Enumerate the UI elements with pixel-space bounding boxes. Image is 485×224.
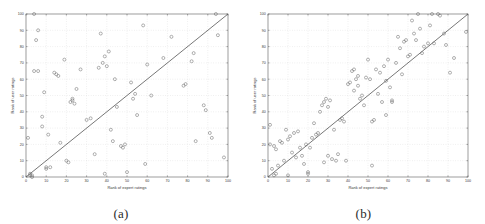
data-point	[449, 71, 452, 74]
data-point	[192, 52, 195, 55]
data-point	[339, 118, 342, 121]
data-point	[351, 70, 354, 73]
data-point	[315, 133, 318, 136]
data-point	[377, 92, 380, 95]
data-point	[136, 114, 139, 117]
data-point	[381, 101, 384, 104]
data-point	[277, 164, 280, 167]
data-point	[401, 73, 404, 76]
data-point	[397, 35, 400, 38]
y-tick-label: 10	[20, 159, 24, 163]
data-point	[162, 57, 165, 60]
y-tick-label: 80	[262, 45, 266, 49]
y-tick-label: 60	[20, 78, 24, 82]
data-point	[329, 99, 332, 102]
data-point	[325, 97, 328, 100]
data-point	[89, 117, 92, 120]
data-point	[208, 131, 211, 134]
data-point	[323, 161, 326, 164]
data-point	[365, 76, 368, 79]
data-point	[359, 97, 362, 100]
data-points	[27, 13, 226, 179]
data-point	[109, 128, 112, 131]
y-axis-title: Rank of user ratings	[252, 78, 257, 114]
figure-container: 0102030405060708090100010203040506070809…	[0, 0, 485, 224]
y-tick-label: 100	[18, 12, 24, 16]
panel-a-caption: (a)	[0, 206, 242, 222]
y-tick-label: 90	[20, 29, 24, 33]
data-point	[99, 32, 102, 35]
x-tick-label: 10	[44, 179, 48, 183]
data-point	[439, 14, 442, 17]
data-point	[41, 125, 44, 128]
data-point	[222, 156, 225, 159]
x-tick-label: 40	[105, 179, 109, 183]
y-tick-label: 100	[260, 12, 266, 16]
x-tick-label: 0	[267, 179, 269, 183]
data-point	[409, 53, 412, 56]
data-point	[353, 68, 356, 71]
y-tick-label: 30	[262, 126, 266, 130]
x-axis-title: Rank of expert ratings	[107, 185, 146, 190]
y-tick-label: 60	[262, 78, 266, 82]
data-point	[103, 172, 106, 175]
data-point	[67, 161, 70, 164]
data-point	[285, 128, 288, 131]
y-tick-label: 20	[20, 143, 24, 147]
data-point	[289, 135, 292, 138]
data-point	[411, 19, 414, 22]
x-tick-label: 90	[206, 179, 210, 183]
y-tick-label: 90	[262, 29, 266, 33]
data-point	[313, 122, 316, 125]
y-axis-title: Rank of user ratings	[10, 78, 15, 114]
x-tick-label: 0	[25, 179, 27, 183]
data-point	[413, 32, 416, 35]
data-point	[57, 74, 60, 77]
data-point	[130, 81, 133, 84]
data-point	[142, 24, 145, 27]
y-tick-label: 20	[262, 143, 266, 147]
data-point	[190, 60, 193, 63]
data-point	[419, 27, 422, 30]
x-tick-label: 10	[286, 179, 290, 183]
data-point	[73, 102, 76, 105]
data-point	[134, 92, 137, 95]
y-tick-label: 40	[20, 110, 24, 114]
x-axis-title: Rank of expert ratings	[348, 185, 387, 190]
data-point	[403, 40, 406, 43]
data-point	[269, 123, 272, 126]
x-tick-label: 60	[386, 179, 390, 183]
data-point	[63, 58, 66, 61]
data-point	[43, 91, 46, 94]
data-point	[115, 105, 118, 108]
data-point	[337, 153, 340, 156]
data-point	[273, 145, 276, 148]
data-point	[184, 83, 187, 86]
data-point	[275, 172, 278, 175]
data-point	[317, 131, 320, 134]
data-point	[433, 42, 436, 45]
data-point	[101, 61, 104, 64]
data-point	[111, 140, 114, 143]
data-point	[35, 39, 38, 42]
data-point	[333, 128, 336, 131]
data-point	[75, 87, 78, 90]
data-point	[202, 104, 205, 107]
data-point	[375, 68, 378, 71]
x-tick-label: 100	[465, 179, 471, 183]
panel-b-caption: (b)	[242, 206, 485, 222]
x-tick-label: 40	[346, 179, 350, 183]
data-point	[41, 115, 44, 118]
data-point	[323, 101, 326, 104]
data-point	[291, 151, 294, 154]
data-point	[343, 120, 346, 123]
data-point	[273, 174, 276, 177]
data-point	[295, 156, 298, 159]
data-point	[37, 70, 40, 73]
data-point	[49, 166, 52, 169]
data-point	[453, 57, 456, 60]
x-tick-label: 20	[306, 179, 310, 183]
data-point	[216, 34, 219, 37]
y-tick-label: 10	[262, 159, 266, 163]
data-point	[33, 70, 36, 73]
